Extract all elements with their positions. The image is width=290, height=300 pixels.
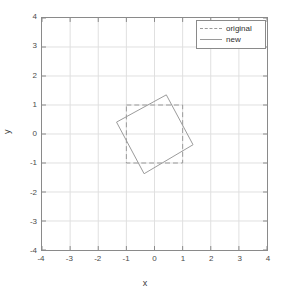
x-tick-label: -1 — [123, 255, 130, 263]
figure-canvas: -4-3-2-101234 43210-1-2-3-4 x y original… — [0, 0, 290, 300]
x-axis-label: x — [0, 278, 290, 288]
x-tick-label: -2 — [94, 255, 101, 263]
x-tick-label: 1 — [181, 255, 185, 263]
x-tick-label: 4 — [266, 255, 270, 263]
y-axis-label: y — [2, 130, 12, 135]
x-tick-label: 0 — [152, 255, 156, 263]
series-polygon-original — [126, 105, 182, 163]
x-tick-label: -3 — [66, 255, 73, 263]
y-tick-label: 2 — [19, 72, 37, 80]
series-polygon-new — [117, 95, 194, 174]
y-tick-label: -1 — [19, 159, 37, 167]
legend-label-original: original — [226, 25, 252, 33]
y-tick-label: -3 — [19, 218, 37, 226]
legend-box: original new — [196, 20, 266, 49]
legend-swatch-dashed-icon — [200, 28, 222, 29]
legend-item-new[interactable]: new — [200, 34, 262, 45]
legend-item-original[interactable]: original — [200, 23, 262, 34]
x-tick-label: -4 — [37, 255, 44, 263]
y-tick-label: -4 — [19, 247, 37, 255]
legend-label-new: new — [226, 36, 241, 44]
y-tick-label: 3 — [19, 42, 37, 50]
x-tick-label: 3 — [237, 255, 241, 263]
y-tick-label: 4 — [19, 13, 37, 21]
x-tick-label: 2 — [209, 255, 213, 263]
y-tick-label: 1 — [19, 101, 37, 109]
legend-swatch-solid-icon — [200, 39, 222, 40]
y-tick-label: -2 — [19, 189, 37, 197]
plot-area — [41, 17, 268, 251]
y-tick-label: 0 — [19, 130, 37, 138]
data-series-layer — [42, 18, 267, 250]
